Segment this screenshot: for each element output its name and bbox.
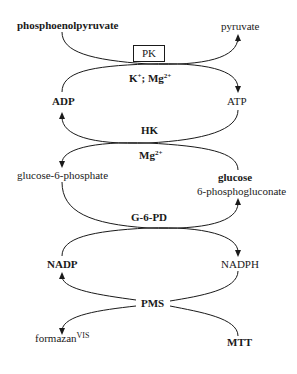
node-phosphoenolpyruvate: phosphoenolpyruvate (17, 19, 118, 31)
arrowhead-nadp (59, 272, 65, 279)
node-mtt: MTT (227, 336, 252, 348)
arrowhead-nadph (235, 250, 241, 257)
enzyme-pms: PMS (141, 297, 164, 309)
arrowhead-atp (235, 86, 241, 93)
arrowhead-pyruvate (235, 34, 241, 41)
node-nadp: NADP (47, 258, 78, 270)
enzyme-g6pd: G-6-PD (131, 211, 167, 223)
cofactor-hk: Mg2+ (139, 149, 162, 161)
node-atp: ATP (227, 95, 247, 107)
cofactor-mg: ; Mg (142, 72, 164, 84)
node-6-phosphogluconate: 6-phosphogluconate (197, 185, 286, 197)
enzyme-pk-box: PK (133, 45, 165, 62)
arrowhead-6pg (235, 198, 241, 205)
arrowhead-g6p (59, 161, 65, 168)
cofactor-k: K (129, 72, 138, 84)
cofactor-pk: K+; Mg2+ (129, 72, 171, 84)
cofactor-hk-mg: Mg (139, 149, 155, 161)
cofactor-hk-mg-charge: 2+ (155, 149, 163, 157)
arrowhead-adp (59, 112, 65, 119)
node-adp: ADP (52, 95, 75, 107)
node-pyruvate: pyruvate (221, 20, 259, 32)
enzyme-pk-label: PK (142, 47, 156, 59)
formazan-label: formazan (35, 332, 77, 344)
node-nadph: NADPH (221, 258, 259, 270)
formazan-vis-sup: VIS (77, 331, 90, 340)
node-formazan: formazanVIS (35, 332, 89, 344)
enzyme-hk: HK (141, 124, 158, 136)
node-glucose-6-phosphate: glucose-6-phosphate (17, 169, 108, 181)
node-glucose: glucose (218, 171, 252, 183)
arrow-nadp-to-nadph (62, 228, 238, 256)
cofactor-mg-charge: 2+ (164, 72, 172, 80)
